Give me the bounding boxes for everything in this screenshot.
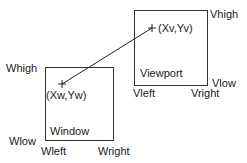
window-low-label: Wlow xyxy=(9,135,36,147)
viewport-point-label: (Xv,Yv) xyxy=(158,22,193,34)
mapping-diagram xyxy=(0,0,247,163)
viewport-title-label: Viewport xyxy=(140,67,183,79)
viewport-right-label: Vright xyxy=(191,87,219,99)
viewport-left-label: Vleft xyxy=(133,87,155,99)
window-left-label: Wleft xyxy=(41,145,66,157)
window-point-marker xyxy=(58,80,66,88)
viewport-point-marker xyxy=(148,24,156,32)
viewport-high-label: Vhigh xyxy=(210,8,238,20)
mapping-line xyxy=(62,28,152,84)
window-high-label: Whigh xyxy=(6,62,37,74)
window-right-label: Wright xyxy=(98,145,130,157)
window-title-label: Window xyxy=(50,125,89,137)
window-point-label: (Xw,Yw) xyxy=(46,89,86,101)
